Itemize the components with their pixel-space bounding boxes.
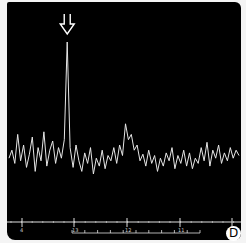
- svg-text:11: 11: [178, 227, 184, 233]
- panel-label: D: [226, 226, 241, 241]
- frequency-axis: 4131211: [7, 218, 241, 233]
- arrow-down-icon: [60, 14, 74, 34]
- spectrum-trace: [9, 42, 239, 174]
- svg-text:4: 4: [20, 227, 23, 233]
- svg-text:13: 13: [72, 227, 78, 233]
- svg-text:12: 12: [125, 227, 131, 233]
- spectrum-plot: 4131211: [7, 2, 241, 240]
- spectrum-panel: 4131211: [7, 2, 241, 240]
